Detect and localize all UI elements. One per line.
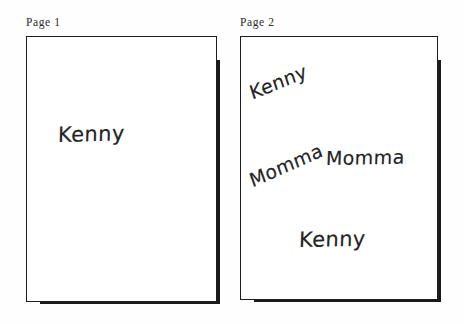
page-2-handwriting-kenny-bottom: Kenny [299,227,367,252]
handwriting-figure: Page 1 Kenny Page 2 Kenny Momma Momma Ke… [0,0,464,324]
page-1-handwriting-kenny: Kenny [58,121,125,147]
page-1-label: Page 1 [26,16,61,29]
page-2-label: Page 2 [240,16,275,29]
page-1-sheet [26,36,217,302]
page-2-handwriting-momma-right: Momma [326,146,405,169]
page-1-group: Page 1 [26,16,226,308]
